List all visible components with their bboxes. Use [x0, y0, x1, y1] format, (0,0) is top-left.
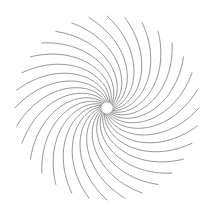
spiral-rosette-figure	[0, 0, 212, 214]
